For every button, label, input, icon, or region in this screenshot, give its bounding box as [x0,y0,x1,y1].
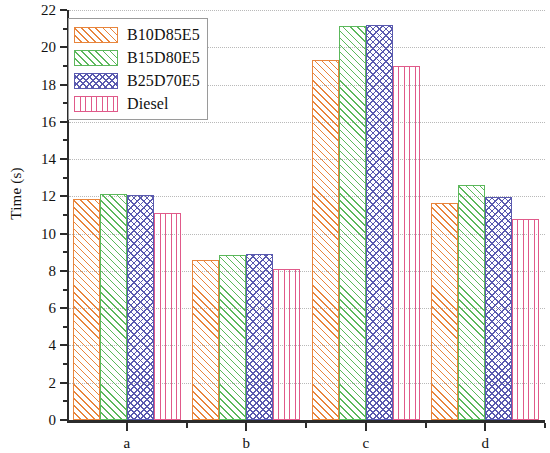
y-tick-minor [63,326,67,328]
legend-item-B15D80E5: B15D80E5 [74,46,200,69]
y-tick-label: 12 [41,188,56,205]
y-tick-label: 2 [49,374,57,391]
legend-label: Diesel [127,95,168,113]
y-tick-minor [63,363,67,365]
y-tick-label: 0 [49,412,57,429]
bar-c-B10D85E5 [312,60,339,420]
bar-a-Diesel [154,213,181,420]
y-tick-minor [63,177,67,179]
bar-c-B25D70E5 [366,25,393,420]
x-tick-label-d: d [482,435,490,452]
y-tick-major [60,270,67,272]
x-tick-minor [425,423,427,428]
bar-c-Diesel [393,66,420,420]
legend-label: B10D85E5 [127,26,200,44]
legend-label: B15D80E5 [127,49,200,67]
y-tick-major [60,46,67,48]
bar-a-B10D85E5 [73,199,100,420]
y-tick-minor [63,28,67,30]
y-tick-minor [63,400,67,402]
y-tick-label: 16 [41,113,56,130]
bar-b-B15D80E5 [219,255,246,420]
bar-b-B10D85E5 [192,260,219,420]
x-tick-major [126,423,128,431]
bar-d-B15D80E5 [458,185,485,420]
y-tick-label: 20 [41,39,56,56]
bar-c-B15D80E5 [339,26,366,420]
y-tick-major [60,344,67,346]
bar-b-B25D70E5 [246,254,273,420]
legend-swatch-B15D80E5 [74,50,118,66]
legend-label: B25D70E5 [127,72,200,90]
bar-d-Diesel [512,219,539,420]
chart-legend: B10D85E5B15D80E5B25D70E5Diesel [68,18,208,120]
y-tick-minor [63,65,67,67]
x-tick-label-a: a [123,435,130,452]
y-tick-major [60,121,67,123]
legend-swatch-B25D70E5 [74,73,118,89]
bar-chart-figure: Time (s) 0246810121416182022 abcd B10D85… [0,0,550,453]
y-tick-label: 4 [49,337,57,354]
x-tick-major [484,423,486,431]
bar-a-B15D80E5 [100,194,127,420]
legend-item-B10D85E5: B10D85E5 [74,23,200,46]
y-tick-label: 22 [41,2,56,19]
y-tick-minor [63,289,67,291]
x-tick-label-b: b [243,435,251,452]
y-tick-major [60,382,67,384]
y-tick-minor [63,251,67,253]
y-tick-minor [63,102,67,104]
y-tick-major [60,9,67,11]
gridline [69,10,545,11]
bar-d-B10D85E5 [431,203,458,420]
y-tick-minor [63,214,67,216]
x-tick-major [365,423,367,431]
x-tick-minor [544,423,546,428]
legend-item-Diesel: Diesel [74,92,200,115]
x-tick-minor [186,423,188,428]
x-tick-major [245,423,247,431]
y-tick-label: 10 [41,225,56,242]
bar-b-Diesel [273,269,300,420]
bar-d-B25D70E5 [485,197,512,420]
legend-item-B25D70E5: B25D70E5 [74,69,200,92]
bar-a-B25D70E5 [127,195,154,421]
y-tick-major [60,195,67,197]
y-tick-major [60,307,67,309]
legend-swatch-Diesel [74,96,118,112]
legend-swatch-B10D85E5 [74,27,118,43]
x-tick-minor [305,423,307,428]
y-tick-major [60,158,67,160]
gridline [69,122,545,123]
y-tick-label: 6 [49,300,57,317]
y-axis-label: Time (s) [8,144,25,244]
x-tick-label-c: c [362,435,369,452]
y-tick-label: 14 [41,151,56,168]
y-tick-major [60,233,67,235]
y-tick-label: 18 [41,76,56,93]
y-tick-label: 8 [49,262,57,279]
y-tick-minor [63,139,67,141]
y-tick-major [60,84,67,86]
y-tick-major [60,419,67,421]
gridline [69,159,545,160]
